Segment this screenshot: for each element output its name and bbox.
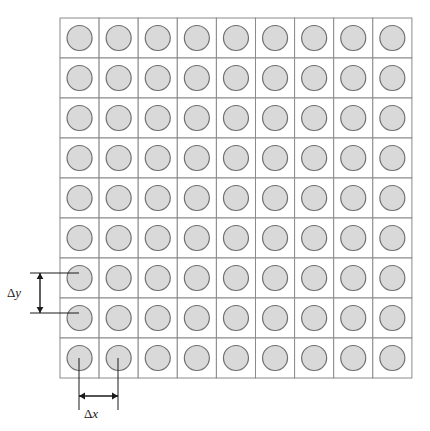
lattice-circle bbox=[106, 306, 131, 331]
lattice-circle bbox=[223, 266, 248, 291]
figure-canvas: Δy Δx bbox=[0, 0, 430, 431]
lattice-circle bbox=[263, 146, 288, 171]
lattice-circle bbox=[67, 106, 92, 131]
lattice-circle bbox=[341, 346, 366, 371]
lattice-circle bbox=[341, 146, 366, 171]
lattice-circle bbox=[145, 306, 170, 331]
lattice-circle bbox=[263, 186, 288, 211]
lattice-circle bbox=[184, 186, 209, 211]
lattice-circle bbox=[341, 306, 366, 331]
lattice-circle bbox=[302, 346, 327, 371]
lattice-circle bbox=[106, 106, 131, 131]
lattice-circle bbox=[67, 66, 92, 91]
lattice-circle bbox=[341, 226, 366, 251]
lattice-circle bbox=[380, 346, 405, 371]
lattice-circle bbox=[380, 266, 405, 291]
lattice-circle bbox=[380, 186, 405, 211]
lattice-circle bbox=[106, 226, 131, 251]
lattice-circle bbox=[380, 66, 405, 91]
lattice-circle bbox=[67, 146, 92, 171]
lattice-circle bbox=[380, 146, 405, 171]
lattice-circle bbox=[145, 186, 170, 211]
lattice-circle bbox=[184, 26, 209, 51]
lattice-circle bbox=[184, 106, 209, 131]
lattice-circle bbox=[341, 66, 366, 91]
lattice-circle bbox=[67, 226, 92, 251]
lattice-circle bbox=[67, 346, 92, 371]
lattice-circle bbox=[145, 26, 170, 51]
lattice-circle bbox=[223, 66, 248, 91]
lattice-circle bbox=[302, 266, 327, 291]
lattice-circle bbox=[302, 26, 327, 51]
lattice-circle bbox=[106, 66, 131, 91]
lattice-circle bbox=[223, 186, 248, 211]
lattice-circle bbox=[145, 146, 170, 171]
lattice-circle bbox=[184, 66, 209, 91]
lattice-circle bbox=[302, 66, 327, 91]
delta-x-arrowhead-left-icon bbox=[79, 393, 85, 400]
lattice-circle bbox=[223, 106, 248, 131]
lattice-circle bbox=[67, 306, 92, 331]
lattice-circle bbox=[145, 66, 170, 91]
lattice-circle bbox=[341, 186, 366, 211]
lattice-circle bbox=[263, 226, 288, 251]
lattice-circle bbox=[145, 226, 170, 251]
lattice-circle bbox=[145, 346, 170, 371]
lattice-circle bbox=[184, 226, 209, 251]
lattice-circle bbox=[67, 26, 92, 51]
lattice-circle bbox=[341, 266, 366, 291]
lattice-circle bbox=[302, 186, 327, 211]
lattice-circle bbox=[184, 146, 209, 171]
lattice-circle bbox=[341, 106, 366, 131]
lattice-circle bbox=[380, 306, 405, 331]
lattice-circle bbox=[145, 106, 170, 131]
delta-y-arrowhead-up-icon bbox=[37, 273, 44, 279]
lattice-circle bbox=[106, 346, 131, 371]
lattice-circle bbox=[67, 186, 92, 211]
lattice-circle bbox=[380, 26, 405, 51]
circle-group bbox=[67, 26, 405, 371]
lattice-circle bbox=[145, 266, 170, 291]
lattice-circle bbox=[106, 146, 131, 171]
lattice-circle bbox=[106, 26, 131, 51]
lattice-diagram: Δy Δx bbox=[0, 0, 430, 431]
lattice-circle bbox=[380, 106, 405, 131]
lattice-circle bbox=[223, 26, 248, 51]
delta-x-arrowhead-right-icon bbox=[112, 393, 118, 400]
lattice-circle bbox=[380, 226, 405, 251]
lattice-circle bbox=[106, 186, 131, 211]
delta-y-label: Δy bbox=[7, 285, 21, 300]
lattice-circle bbox=[263, 266, 288, 291]
lattice-circle bbox=[67, 266, 92, 291]
delta-y-arrowhead-down-icon bbox=[37, 307, 44, 313]
lattice-circle bbox=[184, 266, 209, 291]
lattice-circle bbox=[106, 266, 131, 291]
lattice-circle bbox=[302, 306, 327, 331]
lattice-circle bbox=[263, 26, 288, 51]
lattice-circle bbox=[263, 66, 288, 91]
lattice-circle bbox=[302, 146, 327, 171]
lattice-circle bbox=[263, 346, 288, 371]
lattice-circle bbox=[184, 306, 209, 331]
lattice-circle bbox=[341, 26, 366, 51]
lattice-circle bbox=[263, 106, 288, 131]
lattice-circle bbox=[223, 146, 248, 171]
lattice-circle bbox=[184, 346, 209, 371]
lattice-circle bbox=[223, 306, 248, 331]
lattice-circle bbox=[223, 226, 248, 251]
lattice-circle bbox=[302, 226, 327, 251]
lattice-circle bbox=[223, 346, 248, 371]
delta-x-label: Δx bbox=[84, 406, 98, 421]
lattice-circle bbox=[263, 306, 288, 331]
lattice-circle bbox=[302, 106, 327, 131]
